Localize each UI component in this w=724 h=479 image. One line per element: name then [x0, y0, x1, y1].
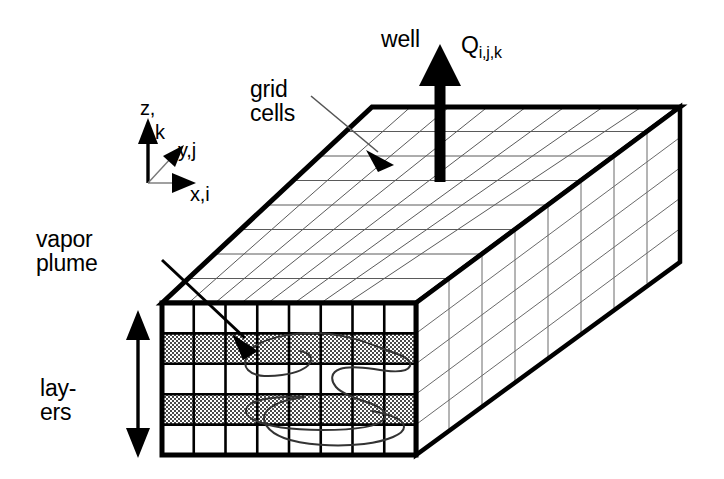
axis-xi-label: x,i: [190, 184, 209, 205]
axis-z-label: z,: [140, 98, 155, 119]
block-diagram-svg: [0, 0, 724, 479]
flux-subscript: i,j,k: [479, 44, 502, 61]
layers-arrow: [126, 310, 150, 458]
front-face: [162, 303, 416, 455]
axis-yj-label: y,j: [178, 140, 196, 161]
vapor-plume-label: vapor plume: [36, 228, 98, 276]
flux-label: Qi,j,k: [461, 34, 502, 58]
diagram-root: well Qi,j,k grid cells vapor plume lay- …: [0, 0, 724, 479]
layers-label: lay- ers: [40, 377, 76, 425]
flux-symbol: Q: [461, 32, 479, 58]
well-label: well: [381, 28, 420, 52]
grid-cells-label: grid cells: [250, 78, 295, 126]
axis-k-label: k: [155, 122, 165, 143]
